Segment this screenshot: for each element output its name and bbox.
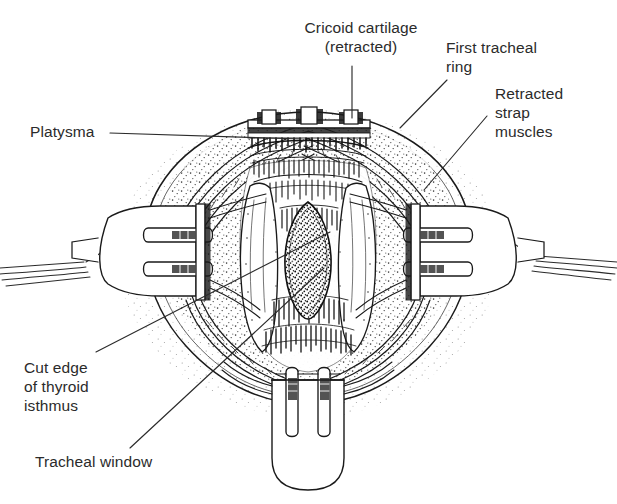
label-cut-edge-of-thyroid-isthmus: Cut edge of thyroid isthmus bbox=[24, 358, 144, 415]
label-cricoid-cartilage: Cricoid cartilage (retracted) bbox=[286, 18, 436, 56]
label-first-tracheal-ring: First tracheal ring bbox=[446, 38, 566, 76]
leader-first-tracheal-ring bbox=[400, 80, 447, 128]
label-platysma: Platysma bbox=[30, 122, 120, 141]
label-tracheal-window: Tracheal window bbox=[35, 452, 195, 471]
figure-root: Cricoid cartilage (retracted) First trac… bbox=[0, 0, 617, 504]
label-retracted-strap-muscles: Retracted strap muscles bbox=[495, 84, 605, 141]
